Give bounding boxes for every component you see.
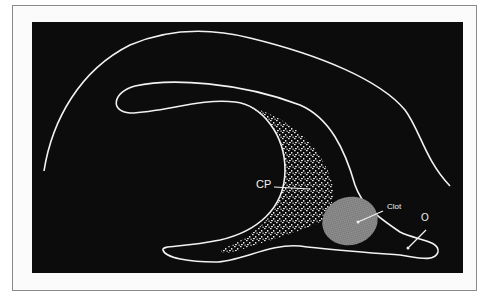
o-leader-dot	[407, 247, 410, 250]
o-leader	[409, 230, 426, 247]
outer-arc	[44, 31, 450, 186]
choroid-plexus	[221, 107, 333, 253]
label-clot: Clot	[387, 202, 401, 211]
clot-leader-dot	[357, 221, 360, 224]
label-o: O	[421, 212, 429, 223]
ventricle-diagram	[0, 0, 487, 299]
label-cp: CP	[256, 178, 271, 190]
